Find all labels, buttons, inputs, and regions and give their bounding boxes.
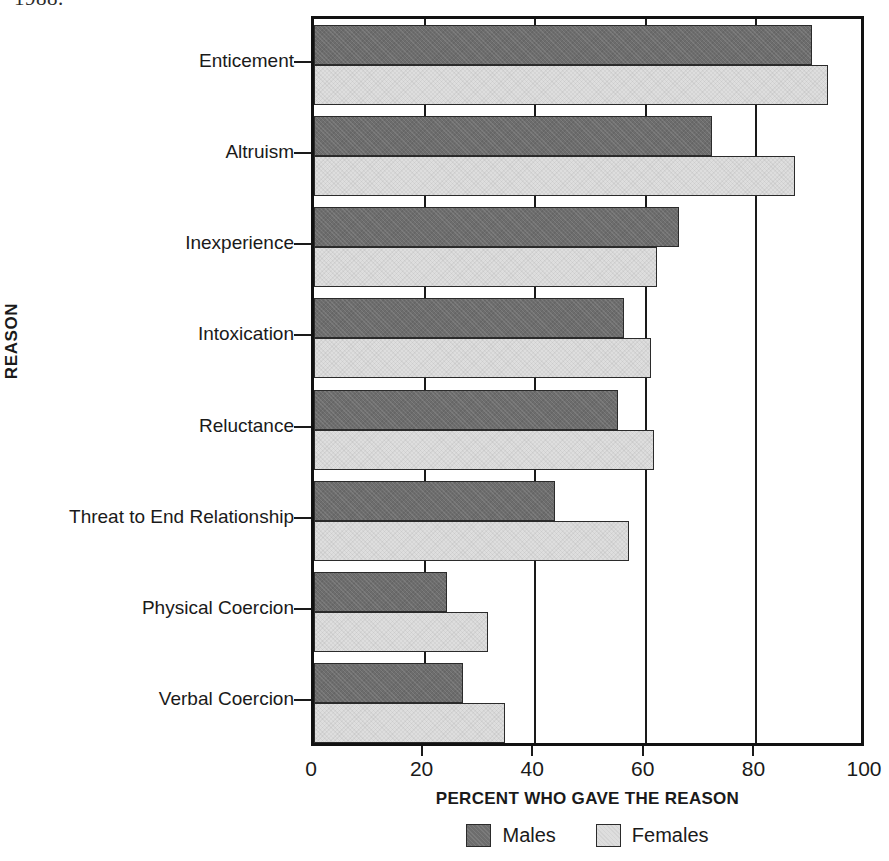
bar-females-reluctance	[314, 430, 654, 470]
bar-males-reluctance	[314, 390, 618, 430]
bar-females-altruism	[314, 156, 795, 196]
bar-males-intoxication	[314, 298, 624, 338]
category-tick-altruism	[294, 152, 311, 154]
x-axis-title: PERCENT WHO GAVE THE REASON	[311, 789, 864, 809]
y-axis-title: REASON	[2, 276, 22, 406]
bar-chart-figure: 1988. REASON EnticementAltruismInexperie…	[0, 0, 889, 861]
x-tick-label-80: 80	[718, 757, 788, 781]
bar-females-threat-to-end-relationship	[314, 521, 629, 561]
x-tick-60	[642, 746, 644, 756]
plot-area	[311, 16, 864, 746]
category-label-reluctance: Reluctance	[199, 416, 294, 435]
x-tick-label-0: 0	[276, 757, 346, 781]
category-label-inexperience: Inexperience	[185, 233, 294, 252]
caption-fragment-text: 1988.	[14, 0, 64, 11]
bar-males-enticement	[314, 25, 812, 65]
category-label-enticement: Enticement	[199, 51, 294, 70]
gridline-80	[755, 19, 757, 743]
bar-males-inexperience	[314, 207, 679, 247]
category-label-physical-coercion: Physical Coercion	[142, 598, 294, 617]
category-label-altruism: Altruism	[225, 142, 294, 161]
bar-males-altruism	[314, 116, 712, 156]
x-tick-label-20: 20	[387, 757, 457, 781]
category-label-intoxication: Intoxication	[198, 324, 294, 343]
bar-males-threat-to-end-relationship	[314, 481, 555, 521]
bar-females-enticement	[314, 65, 828, 105]
x-tick-80	[752, 746, 754, 756]
category-label-threat-to-end-relationship: Threat to End Relationship	[69, 507, 294, 526]
x-tick-20	[421, 746, 423, 756]
legend-swatch-males-icon	[466, 824, 491, 847]
category-tick-enticement	[294, 61, 311, 63]
legend-label-males: Males	[502, 824, 555, 847]
legend-swatch-females-icon	[596, 824, 621, 847]
category-tick-inexperience	[294, 243, 311, 245]
legend-item-females[interactable]: Females	[596, 824, 709, 847]
legend-item-males[interactable]: Males	[466, 824, 555, 847]
bar-females-intoxication	[314, 338, 651, 378]
bar-males-verbal-coercion	[314, 663, 463, 703]
x-tick-label-60: 60	[608, 757, 678, 781]
bar-females-verbal-coercion	[314, 703, 505, 743]
category-label-verbal-coercion: Verbal Coercion	[159, 689, 294, 708]
bar-males-physical-coercion	[314, 572, 447, 612]
x-tick-40	[531, 746, 533, 756]
category-tick-physical-coercion	[294, 608, 311, 610]
category-tick-reluctance	[294, 426, 311, 428]
bar-females-inexperience	[314, 247, 657, 287]
chart-legend: MalesFemales	[311, 824, 864, 847]
x-tick-label-100: 100	[829, 757, 889, 781]
category-tick-verbal-coercion	[294, 699, 311, 701]
legend-label-females: Females	[632, 824, 709, 847]
x-tick-label-40: 40	[497, 757, 567, 781]
category-tick-threat-to-end-relationship	[294, 517, 311, 519]
bar-females-physical-coercion	[314, 612, 488, 652]
category-tick-intoxication	[294, 334, 311, 336]
